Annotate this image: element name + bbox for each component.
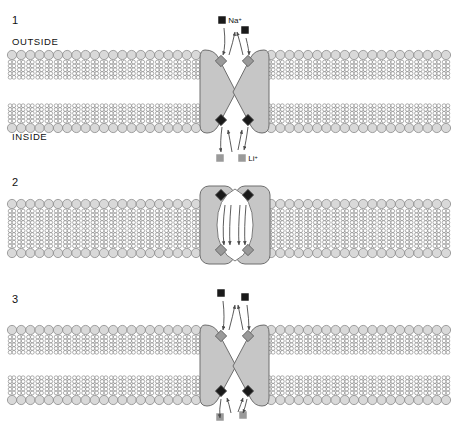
lipid-head [368, 199, 377, 208]
lipid-head [99, 325, 108, 334]
lipid-head [17, 123, 26, 132]
lipid-head [35, 123, 44, 132]
lipid-head [155, 248, 164, 257]
lipid-head [118, 123, 127, 132]
lipid-head [313, 248, 322, 257]
lipid-head [414, 50, 423, 59]
lipid-head [386, 395, 395, 404]
ion-top-right [241, 293, 249, 301]
lipid-head [377, 199, 386, 208]
lipid-head [349, 199, 358, 208]
lipid-head [63, 248, 72, 257]
lipid-head [35, 50, 44, 59]
panel-3-number: 3 [12, 293, 18, 305]
lipid-head [7, 325, 16, 334]
lipid-head [349, 248, 358, 257]
lipid-head [368, 50, 377, 59]
lipid-head [136, 123, 145, 132]
lipid-head [414, 395, 423, 404]
lipid-head [395, 325, 404, 334]
lipid-head [432, 248, 441, 257]
panel-2-transporter [200, 186, 270, 264]
lipid-head [405, 199, 414, 208]
panel-1-outside-label: OUTSIDE [12, 36, 58, 47]
lipid-head [432, 123, 441, 132]
lipid-head [173, 395, 182, 404]
lipid-head [386, 248, 395, 257]
lipid-head [414, 199, 423, 208]
lipid-head [90, 199, 99, 208]
lipid-head [313, 325, 322, 334]
lipid-head [81, 199, 90, 208]
lipid-head [109, 325, 118, 334]
lipid-head [72, 199, 81, 208]
lipid-head [285, 325, 294, 334]
lipid-head [7, 395, 16, 404]
ion-top-left [217, 289, 225, 297]
lipid-head [405, 325, 414, 334]
lipid-head [405, 395, 414, 404]
lipid-head [109, 199, 118, 208]
lipid-head [127, 325, 136, 334]
lipid-head [386, 50, 395, 59]
lipid-head [127, 199, 136, 208]
lipid-head [303, 325, 312, 334]
lipid-head [63, 123, 72, 132]
lipid-head [386, 325, 395, 334]
lipid-head [377, 248, 386, 257]
lipid-head [63, 325, 72, 334]
lipid-head [17, 248, 26, 257]
lipid-head [359, 395, 368, 404]
lipid-head [35, 395, 44, 404]
lipid-head [432, 50, 441, 59]
lipid-head [7, 50, 16, 59]
lipid-head [294, 50, 303, 59]
lipid-head [368, 395, 377, 404]
lipid-head [359, 248, 368, 257]
membrane-transport-diagram: 1 OUTSIDE INSIDE Na+Li+ 2 [0, 0, 460, 428]
lipid-head [127, 123, 136, 132]
lipid-head [118, 50, 127, 59]
lipid-head [63, 50, 72, 59]
lipid-head [136, 50, 145, 59]
lipid-head [349, 325, 358, 334]
lipid-head [359, 325, 368, 334]
lipid-head [182, 199, 191, 208]
lipid-head [303, 123, 312, 132]
lipid-head [359, 199, 368, 208]
lipid-head [99, 50, 108, 59]
lipid-head [81, 123, 90, 132]
lipid-head [17, 50, 26, 59]
lipid-head [331, 248, 340, 257]
lipid-head [136, 248, 145, 257]
lipid-head [145, 123, 154, 132]
lipid-head [285, 248, 294, 257]
lipid-head [164, 248, 173, 257]
lipid-head [164, 123, 173, 132]
lipid-head [44, 248, 53, 257]
lipid-head [191, 199, 200, 208]
lipid-head [432, 395, 441, 404]
lipid-head [276, 325, 285, 334]
lipid-head [136, 199, 145, 208]
lipid-head [395, 248, 404, 257]
lipid-head [155, 395, 164, 404]
lipid-head [432, 325, 441, 334]
lipid-head [395, 50, 404, 59]
lipid-head [340, 123, 349, 132]
lipid-head [35, 199, 44, 208]
lipid-head [359, 123, 368, 132]
lipid-head [164, 325, 173, 334]
lipid-head [90, 50, 99, 59]
lipid-head [173, 325, 182, 334]
lipid-head [359, 50, 368, 59]
lipid-head [155, 50, 164, 59]
lipid-head [191, 325, 200, 334]
lipid-head [322, 395, 331, 404]
lipid-head [182, 248, 191, 257]
lipid-head [182, 325, 191, 334]
lipid-head [44, 50, 53, 59]
lipid-head [26, 123, 35, 132]
lipid-head [331, 325, 340, 334]
ion-li-left [216, 154, 224, 162]
